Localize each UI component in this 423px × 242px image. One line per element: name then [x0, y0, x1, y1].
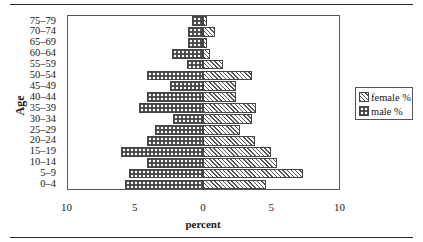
- female-bar: [203, 136, 255, 146]
- male-bar: [147, 92, 203, 102]
- female-bar: [203, 38, 207, 48]
- male-swatch-icon: [359, 106, 369, 116]
- x-tick-label: 10: [334, 201, 345, 213]
- female-bar: [203, 60, 223, 70]
- female-bar: [203, 103, 256, 113]
- legend: female % male %: [355, 87, 413, 120]
- female-bar: [203, 49, 210, 59]
- y-axis-title: Age: [13, 94, 28, 118]
- male-bar: [172, 49, 203, 59]
- age-label: 30–34: [30, 114, 56, 125]
- legend-male-label: male %: [371, 106, 403, 117]
- top-rule: [10, 4, 413, 5]
- male-bar: [125, 180, 203, 190]
- male-bar: [187, 60, 203, 70]
- bottom-rule: [10, 237, 413, 238]
- male-bar: [139, 103, 203, 113]
- male-bar: [147, 158, 203, 168]
- female-bar: [203, 27, 215, 37]
- legend-item-female: female %: [359, 90, 409, 104]
- female-bar: [203, 81, 236, 91]
- age-label: 35–39: [30, 103, 56, 114]
- male-bar: [170, 81, 203, 91]
- female-bar: [203, 71, 252, 81]
- female-bar: [203, 125, 240, 135]
- female-bar: [203, 114, 252, 124]
- legend-female-label: female %: [371, 92, 411, 103]
- legend-item-male: male %: [359, 104, 409, 118]
- female-bar: [203, 158, 277, 168]
- x-tick-label: 0: [200, 201, 206, 213]
- male-bar: [173, 114, 203, 124]
- male-bar: [155, 125, 203, 135]
- male-bar: [147, 71, 203, 81]
- male-bar: [188, 38, 203, 48]
- female-bar: [203, 169, 303, 179]
- male-bar: [147, 136, 203, 146]
- female-swatch-icon: [359, 92, 369, 102]
- female-bar: [203, 180, 266, 190]
- x-tick-label: 10: [61, 201, 72, 213]
- male-bar: [188, 27, 203, 37]
- male-bar: [121, 147, 203, 157]
- age-label: 0–4: [40, 179, 56, 190]
- x-axis-title: percent: [185, 218, 220, 230]
- female-bar: [203, 147, 271, 157]
- female-bar: [203, 16, 207, 26]
- male-bar: [129, 169, 203, 179]
- x-tick-label: 5: [269, 201, 275, 213]
- female-bar: [203, 92, 236, 102]
- x-tick-label: 5: [132, 201, 138, 213]
- male-bar: [192, 16, 203, 26]
